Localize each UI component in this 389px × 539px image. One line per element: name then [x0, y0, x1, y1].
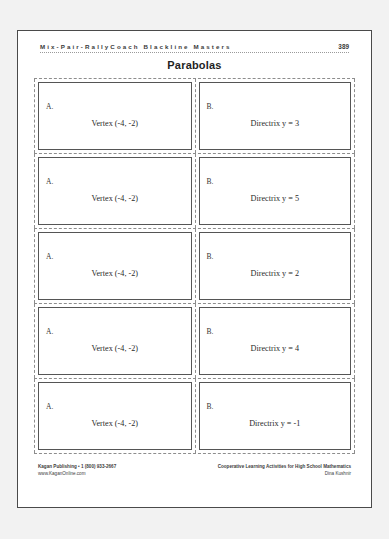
footer-book-title: Cooperative Learning Activities for High…	[218, 463, 351, 470]
card-content: Directrix y = 5	[200, 194, 351, 203]
card-content: Vertex (-4, -2)	[39, 419, 191, 428]
card-label: A.	[46, 177, 53, 186]
card-label: A.	[46, 327, 53, 336]
card-content: Vertex (-4, -2)	[39, 269, 191, 278]
header-divider	[40, 52, 349, 53]
flashcard-a[interactable]: A. Vertex (-4, -2)	[38, 82, 192, 150]
flashcard-a[interactable]: A. Vertex (-4, -2)	[38, 307, 192, 375]
page-header: Mix-Pair-RallyCoach Blackline Masters 38…	[34, 43, 355, 50]
card-label: B.	[207, 177, 214, 186]
card-label: B.	[207, 102, 214, 111]
card-content: Vertex (-4, -2)	[39, 119, 191, 128]
card-label: B.	[207, 252, 214, 261]
card-content: Directrix y = 3	[200, 119, 351, 128]
card-label: A.	[46, 402, 53, 411]
card-label: B.	[207, 402, 214, 411]
card-cell-b: B. Directrix y = 4	[195, 304, 356, 378]
card-grid: A. Vertex (-4, -2) B. Directrix y = 3 A.…	[34, 78, 355, 454]
card-cell-b: B. Directrix y = -1	[195, 379, 356, 453]
flashcard-a[interactable]: A. Vertex (-4, -2)	[38, 382, 192, 450]
flashcard-b[interactable]: B. Directrix y = 5	[199, 157, 352, 225]
card-row: A. Vertex (-4, -2) B. Directrix y = 5	[34, 153, 355, 228]
card-label: B.	[207, 327, 214, 336]
card-content: Directrix y = 2	[200, 269, 351, 278]
card-content: Vertex (-4, -2)	[39, 194, 191, 203]
header-series-title: Mix-Pair-RallyCoach Blackline Masters	[40, 43, 232, 50]
page-footer: Kagan Publishing • 1 (800) 933-2667 www.…	[34, 463, 355, 477]
flashcard-a[interactable]: A. Vertex (-4, -2)	[38, 157, 192, 225]
footer-publisher-block: Kagan Publishing • 1 (800) 933-2667 www.…	[38, 463, 116, 477]
page-title: Parabolas	[34, 59, 355, 71]
header-page-number: 389	[338, 43, 349, 50]
card-cell-a: A. Vertex (-4, -2)	[34, 79, 195, 153]
card-label: A.	[46, 102, 53, 111]
card-content: Directrix y = 4	[200, 344, 351, 353]
card-cell-a: A. Vertex (-4, -2)	[34, 304, 195, 378]
card-cell-b: B. Directrix y = 3	[195, 79, 356, 153]
card-row: A. Vertex (-4, -2) B. Directrix y = 4	[34, 303, 355, 378]
card-cell-b: B. Directrix y = 5	[195, 154, 356, 228]
footer-book-block: Cooperative Learning Activities for High…	[218, 463, 351, 477]
card-row: A. Vertex (-4, -2) B. Directrix y = 2	[34, 228, 355, 303]
flashcard-b[interactable]: B. Directrix y = -1	[199, 382, 352, 450]
card-cell-b: B. Directrix y = 2	[195, 229, 356, 303]
footer-author: Dina Kushnir	[218, 470, 351, 477]
card-content: Directrix y = -1	[200, 419, 351, 428]
flashcard-b[interactable]: B. Directrix y = 2	[199, 232, 352, 300]
card-row: A. Vertex (-4, -2) B. Directrix y = 3	[34, 78, 355, 153]
footer-publisher: Kagan Publishing • 1 (800) 933-2667	[38, 463, 116, 470]
card-content: Vertex (-4, -2)	[39, 344, 191, 353]
card-cell-a: A. Vertex (-4, -2)	[34, 154, 195, 228]
card-cell-a: A. Vertex (-4, -2)	[34, 229, 195, 303]
worksheet-page: Mix-Pair-RallyCoach Blackline Masters 38…	[17, 30, 372, 508]
flashcard-a[interactable]: A. Vertex (-4, -2)	[38, 232, 192, 300]
flashcard-b[interactable]: B. Directrix y = 4	[199, 307, 352, 375]
card-row: A. Vertex (-4, -2) B. Directrix y = -1	[34, 378, 355, 454]
flashcard-b[interactable]: B. Directrix y = 3	[199, 82, 352, 150]
footer-website[interactable]: www.KaganOnline.com	[38, 470, 116, 477]
card-cell-a: A. Vertex (-4, -2)	[34, 379, 195, 453]
page-content: Mix-Pair-RallyCoach Blackline Masters 38…	[34, 43, 355, 499]
card-label: A.	[46, 252, 53, 261]
